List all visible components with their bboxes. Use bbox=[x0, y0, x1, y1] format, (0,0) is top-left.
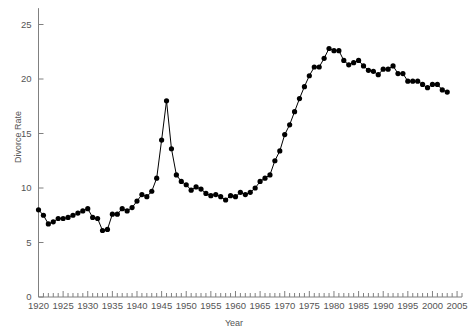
data-point bbox=[134, 198, 139, 203]
data-point bbox=[326, 46, 331, 51]
data-point bbox=[184, 182, 189, 187]
x-axis-tick-label: 1960 bbox=[225, 300, 246, 311]
data-point bbox=[174, 172, 179, 177]
data-point bbox=[400, 71, 405, 76]
data-point bbox=[46, 221, 51, 226]
data-point bbox=[95, 216, 100, 221]
data-point bbox=[248, 190, 253, 195]
data-point bbox=[164, 98, 169, 103]
x-axis-tick-label: 1950 bbox=[176, 300, 197, 311]
data-point bbox=[75, 210, 80, 215]
data-point bbox=[120, 206, 125, 211]
x-axis-tick-label: 2005 bbox=[447, 300, 468, 311]
data-point bbox=[376, 72, 381, 77]
data-point bbox=[179, 179, 184, 184]
data-point bbox=[405, 79, 410, 84]
series-line bbox=[39, 48, 448, 230]
data-point bbox=[70, 213, 75, 218]
data-point bbox=[51, 219, 56, 224]
data-point bbox=[356, 58, 361, 63]
x-axis-tick-label: 1965 bbox=[250, 300, 271, 311]
data-point bbox=[243, 192, 248, 197]
data-point bbox=[65, 215, 70, 220]
data-point bbox=[159, 137, 164, 142]
data-point bbox=[110, 212, 115, 217]
y-axis-tick-label: 20 bbox=[21, 73, 32, 84]
data-point bbox=[331, 48, 336, 53]
data-point bbox=[361, 63, 366, 68]
data-point bbox=[272, 158, 277, 163]
data-point bbox=[213, 192, 218, 197]
x-axis-tick-label: 1990 bbox=[373, 300, 394, 311]
data-point bbox=[386, 67, 391, 72]
data-point bbox=[307, 73, 312, 78]
data-line bbox=[39, 48, 448, 230]
data-point bbox=[312, 64, 317, 69]
data-point bbox=[381, 67, 386, 72]
data-point bbox=[258, 179, 263, 184]
data-point bbox=[292, 109, 297, 114]
data-point bbox=[415, 79, 420, 84]
data-point bbox=[233, 194, 238, 199]
data-point bbox=[61, 216, 66, 221]
data-point bbox=[445, 89, 450, 94]
x-axis-tick-label: 1940 bbox=[126, 300, 147, 311]
divorce-rate-line-chart: 0510152025 19201925193019351940194519501… bbox=[0, 0, 468, 336]
x-axis-tick-label: 1985 bbox=[348, 300, 369, 311]
data-point bbox=[410, 79, 415, 84]
x-axis-tick-label: 1945 bbox=[151, 300, 172, 311]
data-point bbox=[56, 216, 61, 221]
data-point bbox=[115, 212, 120, 217]
data-point bbox=[366, 68, 371, 73]
data-point bbox=[149, 189, 154, 194]
data-point bbox=[420, 82, 425, 87]
data-point bbox=[336, 48, 341, 53]
x-axis-tick-label: 1995 bbox=[397, 300, 418, 311]
data-point bbox=[346, 62, 351, 67]
data-point bbox=[223, 197, 228, 202]
data-point bbox=[238, 190, 243, 195]
x-axis-tick-label: 1980 bbox=[323, 300, 344, 311]
data-point bbox=[90, 215, 95, 220]
data-point bbox=[277, 148, 282, 153]
data-points bbox=[36, 46, 450, 233]
data-point bbox=[189, 188, 194, 193]
data-point bbox=[440, 87, 445, 92]
y-axis-title: Divorce Rate bbox=[13, 97, 23, 177]
x-axis: 1920192519301935194019451950195519601965… bbox=[28, 291, 468, 311]
x-axis-tick-label: 1975 bbox=[299, 300, 320, 311]
data-point bbox=[139, 192, 144, 197]
y-axis-tick-label: 5 bbox=[26, 237, 31, 248]
y-axis-tick-label: 25 bbox=[21, 19, 32, 30]
data-point bbox=[218, 194, 223, 199]
data-point bbox=[144, 194, 149, 199]
x-axis-tick-label: 1930 bbox=[77, 300, 98, 311]
data-point bbox=[253, 185, 258, 190]
data-point bbox=[302, 84, 307, 89]
data-point bbox=[105, 227, 110, 232]
data-point bbox=[198, 186, 203, 191]
data-point bbox=[125, 208, 130, 213]
x-axis-title: Year bbox=[0, 318, 468, 328]
data-point bbox=[228, 193, 233, 198]
data-point bbox=[395, 71, 400, 76]
data-point bbox=[80, 208, 85, 213]
data-point bbox=[267, 172, 272, 177]
data-point bbox=[154, 176, 159, 181]
data-point bbox=[351, 60, 356, 65]
data-point bbox=[85, 206, 90, 211]
x-axis-tick-label: 1935 bbox=[102, 300, 123, 311]
data-point bbox=[341, 58, 346, 63]
data-point bbox=[203, 191, 208, 196]
data-point bbox=[425, 85, 430, 90]
data-point bbox=[169, 146, 174, 151]
x-axis-tick-label: 1920 bbox=[28, 300, 49, 311]
x-axis-tick-label: 1955 bbox=[200, 300, 221, 311]
x-axis-tick-label: 1925 bbox=[53, 300, 74, 311]
data-point bbox=[390, 63, 395, 68]
data-point bbox=[435, 82, 440, 87]
data-point bbox=[282, 132, 287, 137]
y-axis: 0510152025 bbox=[21, 8, 44, 302]
data-point bbox=[100, 228, 105, 233]
data-point bbox=[208, 193, 213, 198]
